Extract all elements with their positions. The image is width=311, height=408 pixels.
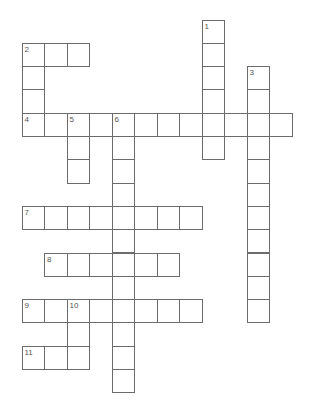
crossword-cell[interactable]: [134, 253, 158, 277]
crossword-cell[interactable]: [89, 206, 113, 230]
crossword-cell[interactable]: [22, 89, 46, 113]
crossword-cell[interactable]: [134, 206, 158, 230]
crossword-cell[interactable]: [89, 253, 113, 277]
crossword-cell[interactable]: [44, 299, 68, 323]
clue-number: 3: [250, 68, 254, 77]
crossword-cell[interactable]: [247, 113, 271, 137]
clue-number: 11: [25, 348, 33, 357]
crossword-cell[interactable]: 6: [112, 113, 136, 137]
crossword-cell[interactable]: [247, 299, 271, 323]
crossword-cell[interactable]: 11: [22, 346, 46, 370]
crossword-cell[interactable]: [67, 253, 91, 277]
crossword-cell[interactable]: [44, 43, 68, 67]
clue-number: 9: [25, 301, 29, 310]
clue-number: 8: [47, 255, 51, 264]
crossword-cell[interactable]: [112, 322, 136, 346]
crossword-cell[interactable]: [247, 136, 271, 160]
crossword-cell[interactable]: [247, 183, 271, 207]
crossword-cell[interactable]: [247, 206, 271, 230]
crossword-cell[interactable]: 8: [44, 253, 68, 277]
crossword-cell[interactable]: 3: [247, 66, 271, 90]
crossword-cell[interactable]: [134, 113, 158, 137]
crossword-cell[interactable]: [44, 206, 68, 230]
crossword-cell[interactable]: 4: [22, 113, 46, 137]
crossword-cell[interactable]: [157, 113, 181, 137]
crossword-cell[interactable]: [202, 43, 226, 67]
crossword-cell[interactable]: [112, 229, 136, 253]
clue-number: 4: [25, 115, 29, 124]
crossword-cell[interactable]: [224, 113, 248, 137]
crossword-cell[interactable]: [269, 113, 293, 137]
crossword-cell[interactable]: [112, 206, 136, 230]
crossword-cell[interactable]: [157, 206, 181, 230]
crossword-cell[interactable]: [67, 43, 91, 67]
crossword-cell[interactable]: [202, 89, 226, 113]
crossword-cell[interactable]: [89, 299, 113, 323]
crossword-cell[interactable]: 9: [22, 299, 46, 323]
crossword-cell[interactable]: [67, 136, 91, 160]
crossword-cell[interactable]: [179, 206, 203, 230]
clue-number: 5: [70, 115, 74, 124]
crossword-cell[interactable]: 2: [22, 43, 46, 67]
crossword-cell[interactable]: [67, 206, 91, 230]
crossword-cell[interactable]: 10: [67, 299, 91, 323]
crossword-cell[interactable]: [157, 253, 181, 277]
crossword-cell[interactable]: [112, 136, 136, 160]
crossword-cell[interactable]: [134, 299, 158, 323]
crossword-cell[interactable]: [22, 66, 46, 90]
crossword-cell[interactable]: [202, 113, 226, 137]
crossword-cell[interactable]: [89, 113, 113, 137]
crossword-cell[interactable]: [179, 113, 203, 137]
crossword-cell[interactable]: 7: [22, 206, 46, 230]
crossword-grid: 1243567891011: [0, 0, 311, 408]
crossword-cell[interactable]: [44, 346, 68, 370]
crossword-cell[interactable]: 5: [67, 113, 91, 137]
crossword-cell[interactable]: [247, 89, 271, 113]
clue-number: 2: [25, 45, 29, 54]
clue-number: 6: [115, 115, 119, 124]
crossword-cell[interactable]: [112, 253, 136, 277]
crossword-cell[interactable]: [247, 159, 271, 183]
crossword-cell[interactable]: [67, 322, 91, 346]
crossword-cell[interactable]: [112, 346, 136, 370]
crossword-cell[interactable]: [112, 183, 136, 207]
clue-number: 1: [205, 22, 209, 31]
crossword-cell[interactable]: [247, 229, 271, 253]
crossword-cell[interactable]: [67, 346, 91, 370]
crossword-cell[interactable]: [44, 113, 68, 137]
crossword-cell[interactable]: [112, 369, 136, 393]
crossword-cell[interactable]: [112, 159, 136, 183]
crossword-cell[interactable]: [202, 66, 226, 90]
crossword-cell[interactable]: [112, 276, 136, 300]
crossword-cell[interactable]: [112, 299, 136, 323]
clue-number: 10: [70, 301, 79, 310]
crossword-cell[interactable]: [247, 253, 271, 277]
crossword-cell[interactable]: [67, 159, 91, 183]
clue-number: 7: [25, 208, 29, 217]
crossword-cell[interactable]: [247, 276, 271, 300]
crossword-cell[interactable]: [157, 299, 181, 323]
crossword-cell[interactable]: [179, 299, 203, 323]
crossword-cell[interactable]: [202, 136, 226, 160]
crossword-cell[interactable]: 1: [202, 20, 226, 44]
